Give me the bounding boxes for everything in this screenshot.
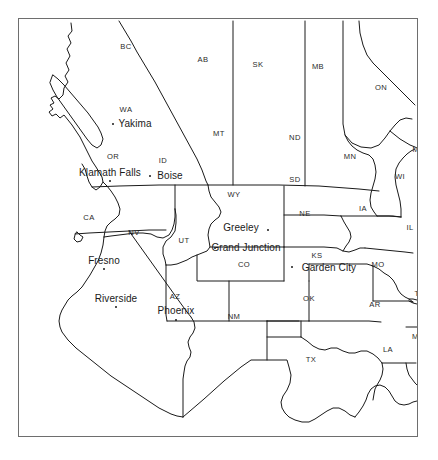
city-dot-fresno (103, 268, 105, 270)
state-label-wi: WI (395, 173, 405, 181)
city-label-grand-junction: Grand Junction (211, 243, 280, 253)
nd-sd-border (284, 215, 341, 216)
state-label-ca: CA (83, 214, 94, 222)
state-label-ar: AR (369, 301, 380, 309)
city-dot-boise (149, 175, 151, 177)
mississippi-river-mo-east (373, 266, 413, 302)
mb-on-border (359, 21, 415, 105)
state-label-on: ON (375, 84, 387, 92)
city-label-greeley: Greeley (223, 223, 259, 233)
vancouver-island (50, 75, 103, 148)
state-label-sk: SK (253, 61, 264, 69)
state-label-wa: WA (120, 106, 133, 114)
city-label-riverside: Riverside (95, 294, 138, 304)
state-label-mi: MI (412, 146, 418, 154)
or-south-border (75, 230, 166, 234)
state-label-nd: ND (289, 134, 301, 142)
city-dot-greeley (267, 229, 269, 231)
lake-michigan-west (395, 149, 415, 217)
state-label-co: CO (238, 261, 250, 269)
ms-la-border (406, 363, 417, 385)
state-label-ab: AB (198, 56, 209, 64)
state-label-ia: IA (359, 205, 367, 213)
city-dot-riverside (115, 306, 117, 308)
state-label-ut: UT (179, 237, 190, 245)
map-frame-border: BCABSKMBONWAMTNDMNMIORIDSDWIWYNEIACANVIL… (18, 18, 418, 437)
map-figure: BCABSKMBONWAMTNDMNMIORIDSDWIWYNEIACANVIL… (0, 0, 438, 460)
city-dot-grand-junction (214, 247, 216, 249)
gulf-coastline (355, 385, 417, 417)
state-label-mt: MT (213, 130, 225, 138)
sd-ne-border (284, 247, 365, 252)
id-mt-border (166, 185, 221, 265)
state-label-la: LA (383, 346, 393, 354)
state-label-bc: BC (120, 43, 131, 51)
state-label-tn: TN (415, 290, 418, 298)
city-label-phoenix: Phoenix (158, 306, 195, 316)
state-label-wy: WY (227, 191, 240, 199)
city-label-fresno: Fresno (88, 256, 120, 266)
state-label-id: ID (159, 157, 167, 165)
state-label-nv: NV (128, 229, 139, 237)
city-dot-yakima (112, 123, 114, 125)
state-label-mn: MN (344, 153, 357, 161)
state-label-ne: NE (299, 210, 310, 218)
pacific-coastline-us (59, 237, 183, 417)
state-label-nm: NM (228, 313, 241, 321)
city-dot-garden-city (291, 266, 293, 268)
state-label-az: AZ (170, 293, 181, 301)
city-label-garden-city: Garden City (302, 263, 356, 273)
state-label-mb: MB (312, 63, 324, 71)
city-dot-klamath-falls (109, 180, 111, 182)
map-geometry (19, 19, 417, 436)
wi-il-border (377, 216, 401, 217)
ca-az-border (183, 317, 195, 417)
british-columbia-coastline (49, 23, 103, 190)
state-label-ok: OK (303, 295, 315, 303)
ks-ok-border-east (309, 321, 381, 322)
city-dot-phoenix (175, 319, 177, 321)
state-label-mo: MO (371, 261, 384, 269)
tx-la-border (373, 363, 383, 400)
state-label-ks: KS (312, 252, 323, 260)
city-label-boise: Boise (157, 171, 183, 181)
missouri-river-border (341, 216, 351, 251)
city-label-yakima: Yakima (118, 119, 151, 129)
state-label-or: OR (107, 153, 119, 161)
state-label-sd: SD (289, 176, 300, 184)
usa-mexico-border (183, 360, 355, 422)
ia-mo-border (365, 248, 413, 253)
state-label-ms: MS (412, 333, 418, 341)
state-label-tx: TX (306, 356, 317, 364)
city-label-klamath-falls: Klamath Falls (79, 168, 141, 178)
state-label-il: IL (406, 224, 413, 232)
washington-coastline (103, 182, 120, 237)
